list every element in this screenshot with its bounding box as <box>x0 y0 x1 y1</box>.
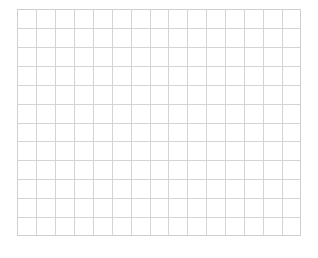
screenshot-canvas <box>0 0 318 258</box>
blank-grid[interactable] <box>17 9 301 236</box>
grid-lines <box>17 9 301 236</box>
